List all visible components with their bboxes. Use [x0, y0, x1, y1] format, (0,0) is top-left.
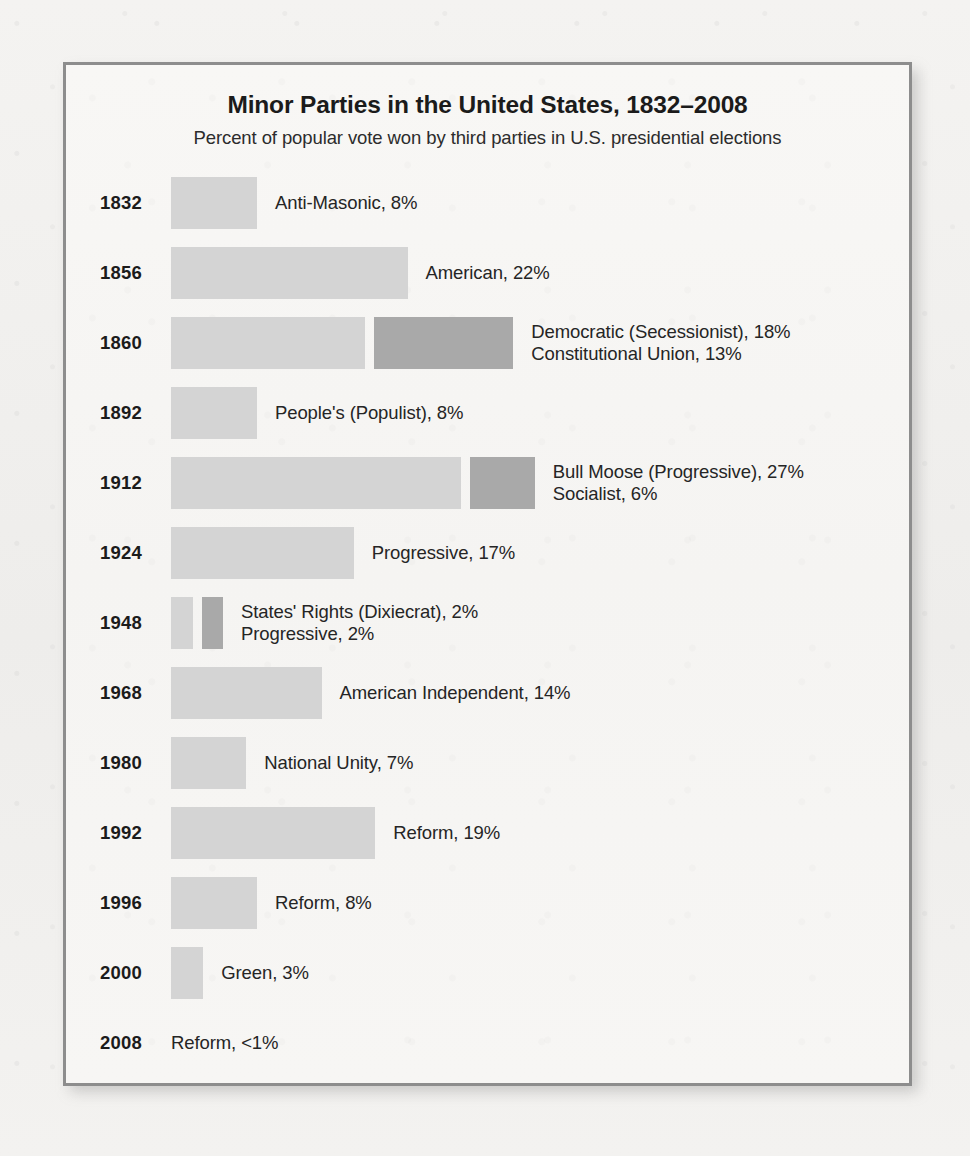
series-label-line: Reform, 19% [393, 822, 500, 844]
series-label-line: Progressive, 17% [372, 542, 515, 564]
chart-row: 2000Green, 3% [66, 947, 909, 999]
series-label-line: National Unity, 7% [264, 752, 413, 774]
series-label: Democratic (Secessionist), 18%Constituti… [531, 321, 790, 365]
bar-segment [171, 527, 354, 579]
year-label-1968: 1968 [100, 682, 174, 704]
bar-segment [202, 597, 224, 649]
series-label-line: States' Rights (Dixiecrat), 2% [241, 601, 478, 623]
year-label-2008: 2008 [100, 1032, 174, 1054]
series-label: Reform, 8% [275, 892, 372, 914]
series-label-line: Reform, 8% [275, 892, 372, 914]
series-label-line: American Independent, 14% [340, 682, 571, 704]
bar-segment [171, 667, 322, 719]
chart-figure-frame: Minor Parties in the United States, 1832… [63, 62, 912, 1086]
chart-row: 1948States' Rights (Dixiecrat), 2%Progre… [66, 597, 909, 649]
bar-segment [374, 317, 514, 369]
series-label: Anti-Masonic, 8% [275, 192, 417, 214]
year-label-1912: 1912 [100, 472, 174, 494]
series-label-line: Bull Moose (Progressive), 27% [553, 461, 804, 483]
bar-segment [171, 387, 257, 439]
bar-segment [470, 457, 535, 509]
series-label-line: Green, 3% [221, 962, 309, 984]
year-label-1992: 1992 [100, 822, 174, 844]
series-label-line: Progressive, 2% [241, 623, 478, 645]
series-label-line: American, 22% [426, 262, 550, 284]
series-label: States' Rights (Dixiecrat), 2%Progressiv… [241, 601, 478, 645]
chart-row: 1860Democratic (Secessionist), 18%Consti… [66, 317, 909, 369]
series-label-line: Socialist, 6% [553, 483, 804, 505]
bar-segment [171, 737, 246, 789]
series-label: American Independent, 14% [340, 682, 571, 704]
bar-segment [171, 597, 193, 649]
year-label-1980: 1980 [100, 752, 174, 774]
series-label-line: Constitutional Union, 13% [531, 343, 790, 365]
chart-row: 1832Anti-Masonic, 8% [66, 177, 909, 229]
series-label-line: People's (Populist), 8% [275, 402, 463, 424]
bar-segment [171, 317, 365, 369]
series-label: Reform, 19% [393, 822, 500, 844]
bar-chart-plot-area: 1832Anti-Masonic, 8%1856American, 22%186… [66, 65, 909, 1083]
chart-row: 1924Progressive, 17% [66, 527, 909, 579]
series-label-line: Democratic (Secessionist), 18% [531, 321, 790, 343]
chart-row: 1996Reform, 8% [66, 877, 909, 929]
year-label-1832: 1832 [100, 192, 174, 214]
chart-row: 1980National Unity, 7% [66, 737, 909, 789]
year-label-1860: 1860 [100, 332, 174, 354]
year-label-1924: 1924 [100, 542, 174, 564]
year-label-1948: 1948 [100, 612, 174, 634]
series-label: American, 22% [426, 262, 550, 284]
chart-row: 1912Bull Moose (Progressive), 27%Sociali… [66, 457, 909, 509]
chart-row: 1992Reform, 19% [66, 807, 909, 859]
series-label: Green, 3% [221, 962, 309, 984]
bar-segment [171, 247, 408, 299]
series-label: Reform, <1% [171, 1032, 278, 1054]
year-label-1892: 1892 [100, 402, 174, 424]
bar-segment [171, 877, 257, 929]
bar-segment [171, 177, 257, 229]
bar-segment [171, 947, 203, 999]
series-label: People's (Populist), 8% [275, 402, 463, 424]
year-label-2000: 2000 [100, 962, 174, 984]
chart-row: 1968American Independent, 14% [66, 667, 909, 719]
bar-segment [171, 807, 375, 859]
series-label: National Unity, 7% [264, 752, 413, 774]
chart-row: 1856American, 22% [66, 247, 909, 299]
bar-segment [171, 457, 461, 509]
series-label-line: Reform, <1% [171, 1032, 278, 1054]
series-label: Progressive, 17% [372, 542, 515, 564]
series-label: Bull Moose (Progressive), 27%Socialist, … [553, 461, 804, 505]
year-label-1856: 1856 [100, 262, 174, 284]
chart-row: 2008Reform, <1% [66, 1017, 909, 1069]
chart-row: 1892People's (Populist), 8% [66, 387, 909, 439]
year-label-1996: 1996 [100, 892, 174, 914]
series-label-line: Anti-Masonic, 8% [275, 192, 417, 214]
